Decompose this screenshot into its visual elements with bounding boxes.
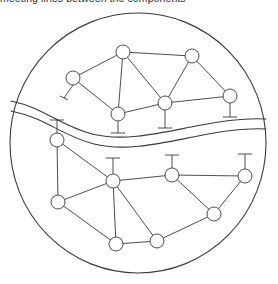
node-u1	[116, 45, 130, 59]
network-diagram	[0, 0, 278, 284]
node-u4	[223, 89, 237, 103]
node-l6	[207, 207, 221, 221]
node-u5	[111, 107, 125, 121]
node-u2	[185, 49, 199, 63]
node-l1	[50, 133, 64, 147]
node-l7	[109, 237, 123, 251]
outer-circle	[10, 13, 266, 273]
node-l5	[51, 195, 65, 209]
node-l8	[150, 234, 164, 248]
node-l2	[106, 174, 120, 188]
figure-root: meeting lines between the components	[0, 0, 278, 284]
node-u6	[158, 96, 172, 110]
node-l3	[165, 168, 179, 182]
node-u3	[66, 71, 80, 85]
node-l4	[238, 169, 252, 183]
outer-circle-group	[10, 13, 266, 273]
